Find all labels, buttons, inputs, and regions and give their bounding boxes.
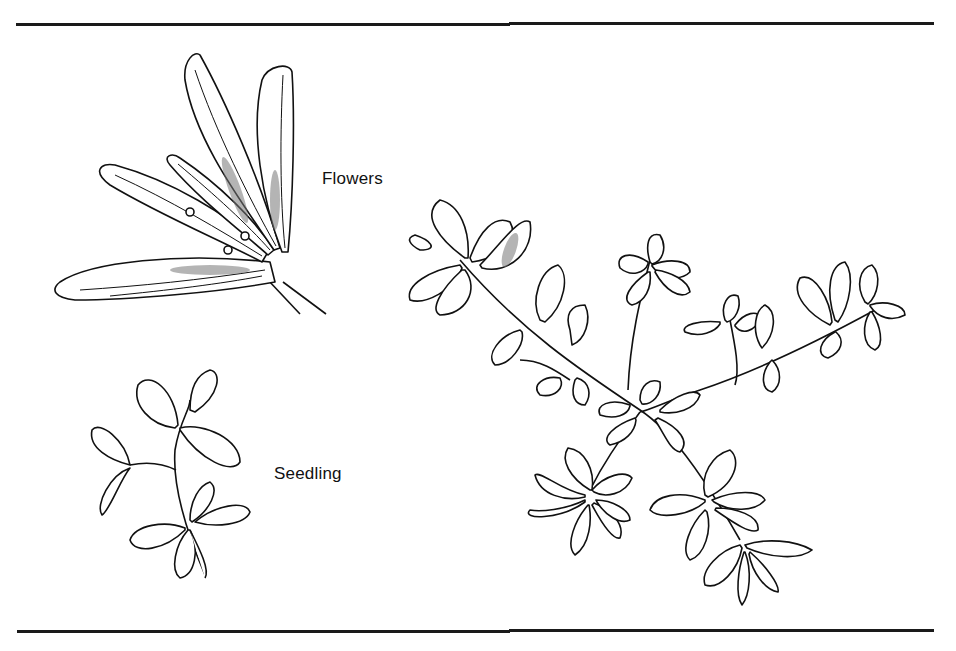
flowers-illustration — [55, 54, 326, 314]
mature-plant-illustration — [409, 200, 905, 605]
seedling-label: Seedling — [274, 464, 342, 484]
flowers-label: Flowers — [322, 169, 383, 189]
botanical-illustration — [0, 0, 956, 651]
seedling-illustration — [92, 370, 250, 578]
